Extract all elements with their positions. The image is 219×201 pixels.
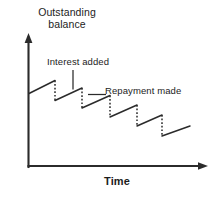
curve-rise-6 (162, 126, 190, 136)
x-axis-arrow-icon (198, 162, 208, 170)
y-axis-label: Outstanding balance (19, 7, 115, 31)
curve-rise-3 (82, 96, 110, 109)
y-axis-label-line-1: Outstanding (19, 7, 115, 19)
curve-rise-5 (137, 115, 162, 126)
y-axis (25, 33, 33, 167)
outstanding-balance-diagram: Outstanding balance Time Interest added … (0, 0, 219, 201)
curve-rise-2 (55, 88, 82, 101)
curve-rise-1 (29, 81, 55, 94)
annotation-interest-added: Interest added (47, 57, 109, 68)
annotation-repayment-made: Repayment made (105, 86, 181, 97)
x-axis (29, 162, 209, 170)
y-axis-label-line-2: balance (19, 19, 115, 31)
x-axis-label: Time (84, 175, 150, 187)
y-axis-arrow-icon (25, 33, 33, 43)
curve-rise-4 (110, 105, 137, 117)
